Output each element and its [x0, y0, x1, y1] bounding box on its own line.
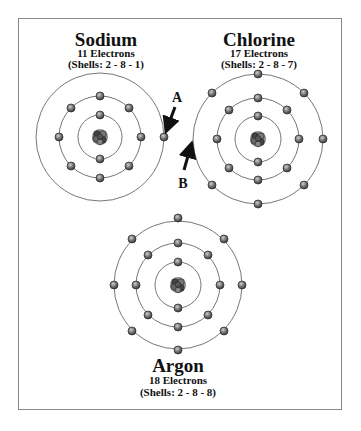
nucleus-icon [170, 277, 186, 293]
nucleus-icon [92, 129, 108, 145]
arrow-label: B [178, 176, 187, 191]
arrow-down-icon [168, 107, 175, 126]
arrow-b: B [178, 149, 190, 191]
nucleus-icon [250, 131, 266, 147]
shell-config: (Shells: 2 - 8 - 7) [221, 58, 297, 71]
shell-config: (Shells: 2 - 8 - 8) [140, 386, 216, 399]
atom-sodium: Sodium 11 Electrons (Shells: 2 - 8 - 1) [36, 29, 168, 201]
atom-diagram: Sodium 11 Electrons (Shells: 2 - 8 - 1) … [0, 0, 361, 431]
atom-argon: Argon 18 Electrons (Shells: 2 - 8 - 8) [110, 214, 246, 399]
arrow-a: A [168, 90, 183, 126]
electrons [55, 92, 168, 182]
shell-config: (Shells: 2 - 8 - 1) [68, 58, 144, 71]
arrow-up-icon [184, 149, 190, 170]
electrons [208, 70, 327, 208]
electron-count: 18 Electrons [149, 374, 208, 386]
arrow-label: A [172, 90, 183, 105]
atom-title: Argon [152, 355, 204, 376]
atom-chlorine: Chlorine 17 Electrons (Shells: 2 - 8 - 7… [193, 29, 327, 208]
